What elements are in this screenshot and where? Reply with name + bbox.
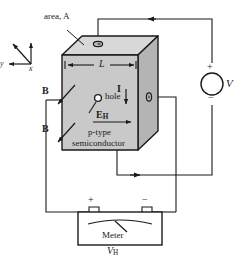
source-minus-sign: −	[208, 93, 214, 103]
hole-circle	[95, 95, 102, 102]
source-voltage-label: V	[226, 78, 233, 89]
b-field-label-2: B	[42, 124, 49, 134]
axis-y-label: y	[0, 60, 4, 68]
wire-bottom-lead	[117, 150, 176, 175]
current-label: I	[117, 84, 121, 94]
hall-voltage-label: VH	[107, 246, 118, 257]
meter-terminal-plus	[89, 207, 99, 212]
hall-field-subscript: H	[103, 113, 109, 121]
meter-body	[78, 212, 162, 245]
meter-plus-sign: +	[88, 195, 94, 205]
meter-label: Meter	[102, 231, 124, 240]
area-label: area, A	[44, 12, 69, 21]
meter-terminal-minus	[142, 207, 152, 212]
meter-minus-sign: −	[142, 195, 148, 205]
source-plus-sign: +	[207, 62, 213, 72]
hall-voltage-subscript: H	[113, 249, 118, 257]
contact-top-center	[97, 43, 101, 45]
material-label-line2: semiconductor	[72, 139, 125, 148]
length-label: L	[99, 59, 105, 69]
wire-right-lead	[152, 97, 212, 175]
contact-right-center	[148, 95, 150, 99]
material-label-line1: p-type	[88, 128, 111, 137]
axis-z-arrow	[13, 44, 31, 64]
axis-x-label: x	[29, 65, 33, 73]
hall-effect-figure: area, A L hole B B EH I p-type semicondu…	[0, 0, 237, 261]
hall-field-label: EH	[96, 110, 108, 121]
b-field-label-1: B	[42, 86, 49, 96]
coordinate-axes	[9, 43, 31, 64]
